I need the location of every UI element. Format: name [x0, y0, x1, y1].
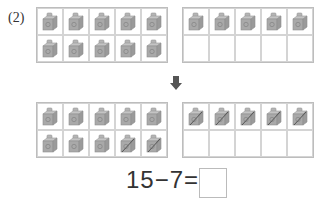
ten-frame-bottom-left — [36, 102, 168, 158]
cube-icon — [41, 134, 59, 154]
down-arrow-icon — [170, 76, 182, 90]
cube-icon — [145, 107, 163, 127]
crossed-cube-icon — [187, 107, 205, 127]
frame-cell — [89, 8, 115, 35]
cube-icon — [93, 12, 111, 32]
frame-cell — [63, 130, 89, 157]
crossed-cube-icon — [239, 107, 257, 127]
frame-cell — [115, 35, 141, 62]
crossed-cube-icon — [145, 134, 163, 154]
frame-cell — [287, 35, 313, 62]
frame-cell — [37, 130, 63, 157]
cube-icon — [119, 39, 137, 59]
frame-cell — [235, 8, 261, 35]
frame-cell — [261, 35, 287, 62]
frame-cell — [37, 8, 63, 35]
cube-icon — [119, 12, 137, 32]
answer-box[interactable] — [199, 168, 227, 198]
equation: 15−7= — [126, 167, 199, 193]
ten-frame-top-right — [182, 7, 314, 63]
cube-icon — [93, 134, 111, 154]
cube-icon — [187, 12, 205, 32]
frame-cell — [63, 35, 89, 62]
ten-frame-bottom-right — [182, 102, 314, 158]
frame-cell — [89, 35, 115, 62]
crossed-cube-icon — [265, 107, 283, 127]
cube-icon — [93, 39, 111, 59]
frame-cell — [209, 130, 235, 157]
frame-cell — [63, 103, 89, 130]
frame-cell — [209, 8, 235, 35]
frame-cell — [141, 130, 167, 157]
frame-cell — [287, 103, 313, 130]
frame-cell — [115, 8, 141, 35]
frame-cell — [37, 35, 63, 62]
frame-cell — [183, 103, 209, 130]
cube-icon — [145, 12, 163, 32]
frame-cell — [115, 130, 141, 157]
frame-cell — [141, 8, 167, 35]
frame-cell — [235, 35, 261, 62]
cube-icon — [67, 39, 85, 59]
frame-cell — [141, 103, 167, 130]
frame-cell — [183, 8, 209, 35]
ten-frame-top-left — [36, 7, 168, 63]
cube-icon — [67, 107, 85, 127]
crossed-cube-icon — [119, 134, 137, 154]
frame-cell — [37, 103, 63, 130]
cube-icon — [145, 39, 163, 59]
frame-cell — [261, 130, 287, 157]
frame-cell — [209, 103, 235, 130]
frame-cell — [235, 103, 261, 130]
cube-icon — [93, 107, 111, 127]
cube-icon — [213, 12, 231, 32]
cube-icon — [291, 12, 309, 32]
frame-cell — [261, 8, 287, 35]
cube-icon — [239, 12, 257, 32]
frame-cell — [115, 103, 141, 130]
cube-icon — [41, 39, 59, 59]
cube-icon — [67, 134, 85, 154]
frame-cell — [183, 130, 209, 157]
cube-icon — [265, 12, 283, 32]
frame-cell — [89, 130, 115, 157]
cube-icon — [41, 107, 59, 127]
cube-icon — [41, 12, 59, 32]
cube-icon — [119, 107, 137, 127]
frame-cell — [63, 8, 89, 35]
frame-cell — [183, 35, 209, 62]
frame-cell — [287, 130, 313, 157]
frame-cell — [89, 103, 115, 130]
frame-cell — [141, 35, 167, 62]
problem-label: (2) — [8, 10, 24, 26]
frame-cell — [209, 35, 235, 62]
frame-cell — [235, 130, 261, 157]
crossed-cube-icon — [291, 107, 309, 127]
crossed-cube-icon — [213, 107, 231, 127]
frame-cell — [261, 103, 287, 130]
cube-icon — [67, 12, 85, 32]
frame-cell — [287, 8, 313, 35]
